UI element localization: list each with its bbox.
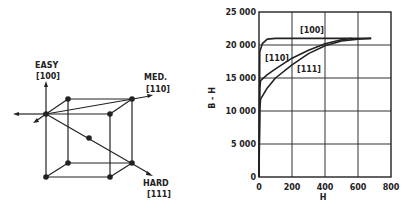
hard-direction: [111] bbox=[147, 190, 171, 199]
x-tick-labels: 0 200 400 600 800 bbox=[256, 183, 400, 192]
y-tick-15000: 15 000 bbox=[225, 74, 256, 83]
med-label: MED. bbox=[144, 73, 167, 82]
cube-atoms bbox=[43, 96, 135, 180]
series-label-110: [110] bbox=[265, 54, 289, 63]
figure: EASY [100] MED. [110] HARD [111] 0 5 000… bbox=[0, 0, 404, 215]
hard-label: HARD bbox=[143, 179, 169, 188]
med-direction: [110] bbox=[146, 85, 170, 94]
y-tick-20000: 20 000 bbox=[225, 41, 256, 50]
x-axis-label: H bbox=[320, 193, 327, 202]
series-label-100: [100] bbox=[300, 26, 324, 35]
x-tick-200: 200 bbox=[284, 183, 301, 192]
x-tick-0: 0 bbox=[256, 183, 262, 192]
x-tick-800: 800 bbox=[383, 183, 400, 192]
x-tick-400: 400 bbox=[317, 183, 334, 192]
series-label-111: [111] bbox=[297, 65, 321, 74]
easy-direction: [100] bbox=[36, 72, 60, 81]
x-tick-600: 600 bbox=[350, 183, 367, 192]
chart-grid bbox=[259, 12, 391, 177]
y-tick-25000: 25 000 bbox=[225, 8, 256, 17]
y-tick-10000: 10 000 bbox=[225, 107, 256, 116]
y-axis-label: B - H bbox=[208, 87, 217, 109]
y-tick-0: 0 bbox=[250, 173, 256, 182]
y-tick-labels: 0 5 000 10 000 15 000 20 000 25 000 bbox=[225, 8, 256, 182]
y-tick-5000: 5 000 bbox=[231, 140, 256, 149]
easy-label: EASY bbox=[35, 61, 58, 70]
